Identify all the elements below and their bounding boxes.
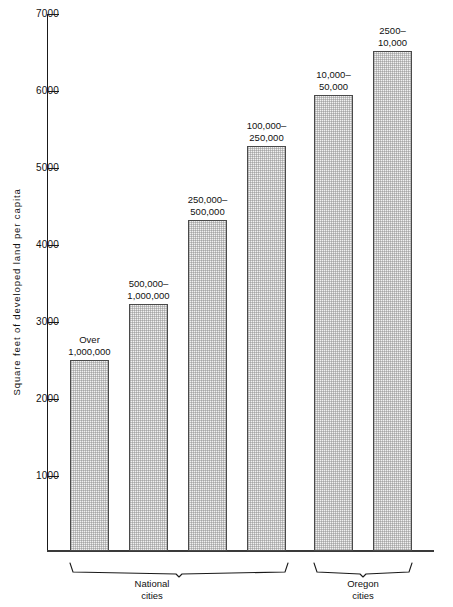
group-label-line2: cities: [109, 590, 195, 602]
bar-label: 2500– 10,000: [356, 25, 429, 48]
bar-label-line1: 10,000–: [297, 69, 370, 81]
y-tick-mark: [47, 91, 59, 92]
bar-label-line2: 250,000: [230, 132, 303, 144]
y-tick-mark: [47, 245, 59, 246]
y-tick-4000: 4000: [0, 245, 59, 246]
group-label-oregon: Oregon cities: [320, 578, 406, 601]
y-tick-mark: [47, 322, 59, 323]
bar: [129, 304, 168, 551]
group-brace-oregon: [312, 562, 414, 578]
bar-label: 10,000– 50,000: [297, 69, 370, 92]
bar-label: 500,000– 1,000,000: [112, 278, 185, 301]
group-label-line1: National: [109, 578, 195, 590]
y-tick-mark: [47, 399, 59, 400]
bar-label-line1: 100,000–: [230, 120, 303, 132]
bar-label: 250,000– 500,000: [171, 194, 244, 217]
group-brace-national: [68, 562, 290, 578]
bar-label: 100,000– 250,000: [230, 120, 303, 143]
bar: [188, 220, 227, 551]
bar-label: Over 1,000,000: [53, 334, 126, 357]
y-tick-1000: 1000: [0, 476, 59, 477]
bar: [247, 146, 286, 551]
y-tick-mark: [47, 14, 59, 15]
bar: [373, 51, 412, 551]
bar-label-line1: Over: [53, 334, 126, 346]
bar-label-line2: 50,000: [297, 81, 370, 93]
group-label-line1: Oregon: [320, 578, 406, 590]
bar-label-line1: 500,000–: [112, 278, 185, 290]
y-tick-2000: 2000: [0, 399, 59, 400]
bar-label-line1: 250,000–: [171, 194, 244, 206]
bar-chart: 7000 6000 5000 4000 3000 2000 1000 Squar…: [0, 0, 453, 607]
bar-label-line2: 1,000,000: [53, 346, 126, 358]
bar-label-line2: 1,000,000: [112, 290, 185, 302]
y-tick-mark: [47, 476, 59, 477]
y-axis-title: Square feet of developed land per capita: [11, 196, 22, 396]
bar: [314, 95, 353, 551]
y-tick-5000: 5000: [0, 168, 59, 169]
y-tick-7000: 7000: [0, 14, 59, 15]
bar: [70, 360, 109, 551]
y-tick-mark: [47, 168, 59, 169]
y-tick-3000: 3000: [0, 322, 59, 323]
bar-label-line2: 500,000: [171, 206, 244, 218]
bar-label-line2: 10,000: [356, 37, 429, 49]
bar-label-line1: 2500–: [356, 25, 429, 37]
group-label-national: National cities: [109, 578, 195, 601]
y-tick-6000: 6000: [0, 91, 59, 92]
group-label-line2: cities: [320, 590, 406, 602]
